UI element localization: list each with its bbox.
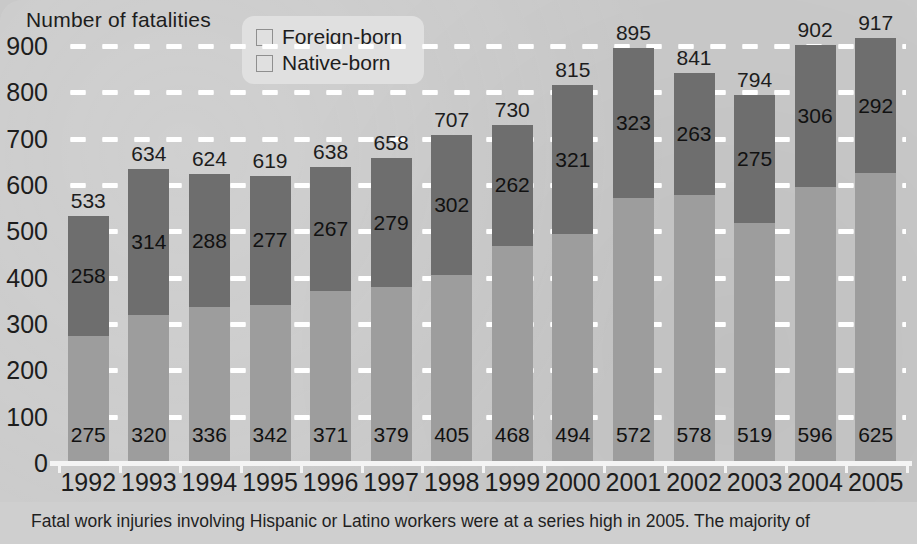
- bar-value-label-foreign-born: 342: [250, 424, 291, 445]
- caption-text: Fatal work injuries involving Hispanic o…: [31, 511, 896, 533]
- plot-area: 9008007006005004003002001000 27525853332…: [58, 46, 906, 463]
- bar-value-label-foreign-born: 379: [371, 424, 412, 445]
- bar-value-label-foreign-born: 572: [613, 424, 654, 445]
- bar-column: 578263841: [674, 46, 715, 463]
- square-swatch-icon: [256, 29, 273, 46]
- y-axis-tick-label: 900: [6, 32, 48, 61]
- bar-column: 275258533: [68, 46, 109, 463]
- bar-value-label-native-born: 323: [613, 112, 654, 133]
- bar-value-label-foreign-born: 468: [492, 424, 533, 445]
- bar-total-label: 841: [666, 47, 723, 68]
- x-axis-label: 2004: [785, 468, 846, 497]
- bar-value-label-foreign-born: 371: [310, 424, 351, 445]
- bar-segment-foreign-born: [795, 187, 836, 463]
- x-axis-label: 1995: [240, 468, 301, 497]
- bar-column: 405302707: [431, 46, 472, 463]
- x-axis-label: 2002: [664, 468, 725, 497]
- bar-value-label-native-born: 306: [795, 105, 836, 126]
- bar-value-label-foreign-born: 578: [674, 424, 715, 445]
- bar-column: 468262730: [492, 46, 533, 463]
- bar-value-label-foreign-born: 275: [68, 424, 109, 445]
- bar-series-group: 2752585333203146343362886243422776193712…: [58, 46, 906, 463]
- bar-column: 625292917: [855, 46, 896, 463]
- y-axis-title: Number of fatalities: [26, 8, 211, 32]
- y-axis-tick-label: 200: [6, 356, 48, 385]
- bar-column: 379279658: [371, 46, 412, 463]
- x-axis-label: 2003: [724, 468, 785, 497]
- y-axis-tick-label: 400: [6, 263, 48, 292]
- bar-value-label-native-born: 314: [128, 231, 169, 252]
- bar-value-label-native-born: 279: [371, 212, 412, 233]
- bar-value-label-foreign-born: 625: [855, 424, 896, 445]
- bar-value-label-native-born: 302: [431, 194, 472, 215]
- bar-value-label-native-born: 321: [552, 149, 593, 170]
- bar-column: 342277619: [250, 46, 291, 463]
- y-axis-tick-label: 0: [34, 449, 48, 478]
- y-axis-tick-label: 300: [6, 310, 48, 339]
- y-axis-tick-label: 800: [6, 78, 48, 107]
- x-axis-label: 1997: [361, 468, 422, 497]
- x-axis-label: 2000: [543, 468, 604, 497]
- x-axis-label: 1998: [421, 468, 482, 497]
- caption-bar: Fatal work injuries involving Hispanic o…: [0, 502, 917, 544]
- bar-value-label-native-born: 262: [492, 174, 533, 195]
- bar-column: 371267638: [310, 46, 351, 463]
- bar-value-label-foreign-born: 494: [552, 424, 593, 445]
- bar-value-label-native-born: 258: [68, 265, 109, 286]
- bar-total-label: 707: [423, 109, 480, 130]
- bar-value-label-native-born: 277: [250, 229, 291, 250]
- x-axis-label: 1994: [179, 468, 240, 497]
- bar-total-label: 895: [605, 22, 662, 43]
- bar-total-label: 533: [60, 190, 117, 211]
- y-axis-tick-label: 100: [6, 402, 48, 431]
- y-axis-tick-label: 600: [6, 171, 48, 200]
- bar-value-label-native-born: 275: [734, 148, 775, 169]
- bar-value-label-foreign-born: 336: [189, 424, 230, 445]
- x-axis-label: 1992: [58, 468, 119, 497]
- bar-column: 320314634: [128, 46, 169, 463]
- x-axis-label: 2005: [845, 468, 906, 497]
- bar-total-label: 634: [120, 143, 177, 164]
- bar-value-label-foreign-born: 519: [734, 424, 775, 445]
- bar-total-label: 658: [363, 132, 420, 153]
- bar-total-label: 624: [181, 148, 238, 169]
- y-axis-tick-label: 700: [6, 124, 48, 153]
- x-axis-label: 1993: [119, 468, 180, 497]
- bar-column: 494321815: [552, 46, 593, 463]
- bar-value-label-foreign-born: 405: [431, 424, 472, 445]
- bar-column: 336288624: [189, 46, 230, 463]
- bar-value-label-native-born: 263: [674, 123, 715, 144]
- bar-segment-foreign-born: [855, 173, 896, 463]
- bar-total-label: 917: [847, 12, 904, 33]
- bar-column: 596306902: [795, 46, 836, 463]
- bar-value-label-native-born: 288: [189, 230, 230, 251]
- bar-value-label-foreign-born: 320: [128, 424, 169, 445]
- x-axis-label: 1996: [300, 468, 361, 497]
- bar-value-label-native-born: 267: [310, 218, 351, 239]
- x-axis-label: 1999: [482, 468, 543, 497]
- bar-column: 519275794: [734, 46, 775, 463]
- x-axis-label: 2001: [603, 468, 664, 497]
- chart-screenshot: Number of fatalities Foreign-born Native…: [0, 0, 917, 544]
- bar-total-label: 902: [787, 19, 844, 40]
- bar-value-label-native-born: 292: [855, 95, 896, 116]
- y-axis-tick-label: 500: [6, 217, 48, 246]
- x-axis-labels: 1992199319941995199619971998199920002001…: [58, 468, 906, 500]
- bar-total-label: 638: [302, 141, 359, 162]
- bar-total-label: 794: [726, 69, 783, 90]
- bar-total-label: 730: [484, 99, 541, 120]
- bar-value-label-foreign-born: 596: [795, 424, 836, 445]
- bar-total-label: 619: [242, 150, 299, 171]
- bar-column: 572323895: [613, 46, 654, 463]
- x-axis-tick-mark: [906, 461, 909, 473]
- bar-total-label: 815: [544, 59, 601, 80]
